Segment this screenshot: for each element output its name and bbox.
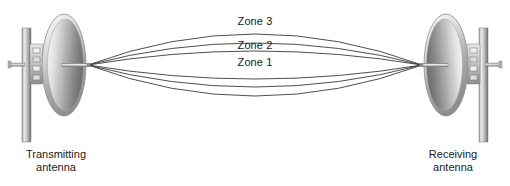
receiving-antenna-caption: Receiving antenna	[400, 148, 506, 174]
transmitting-bracket-slot-4	[33, 75, 40, 80]
transmitting-caption-line-2: antenna	[2, 161, 110, 174]
zone3-lower-curve	[88, 65, 422, 96]
transmitting-antenna-caption: Transmitting antenna	[2, 148, 110, 174]
zone-2-label: Zone 2	[0, 39, 510, 51]
zone-1-label: Zone 1	[0, 56, 510, 68]
receiving-bracket-slot-4	[470, 75, 477, 80]
transmitting-caption-line-1: Transmitting	[2, 148, 110, 161]
zone2-lower-curve	[88, 65, 422, 87]
zone-3-label: Zone 3	[0, 15, 510, 27]
receiving-caption-line-2: antenna	[400, 161, 506, 174]
receiving-antenna	[420, 14, 503, 142]
fresnel-zone-diagram: Zone 3 Zone 2 Zone 1 Transmitting antenn…	[0, 0, 510, 186]
transmitting-antenna	[8, 14, 91, 142]
receiving-caption-line-1: Receiving	[400, 148, 506, 161]
